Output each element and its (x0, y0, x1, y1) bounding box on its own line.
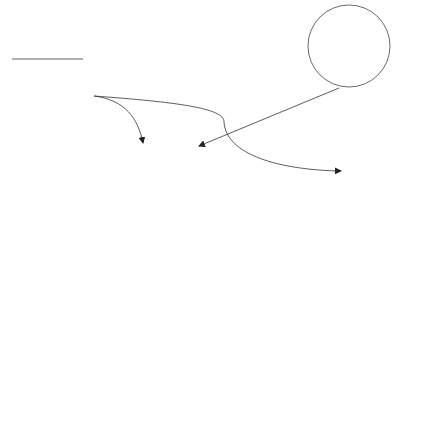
hrm-practice-node (308, 5, 390, 87)
arrow-hrm-to-initial (199, 88, 339, 146)
arrow-covariates-to-slope (94, 96, 341, 171)
growth-model-diagram (0, 0, 435, 423)
arrow-covariates-to-initial (94, 96, 143, 143)
